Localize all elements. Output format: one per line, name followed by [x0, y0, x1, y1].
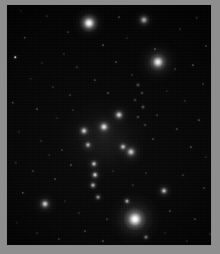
detector-noise-overlay [7, 5, 211, 245]
image-frame [6, 4, 212, 246]
astronomy-image-figure [0, 0, 220, 254]
sky-field [7, 5, 211, 245]
